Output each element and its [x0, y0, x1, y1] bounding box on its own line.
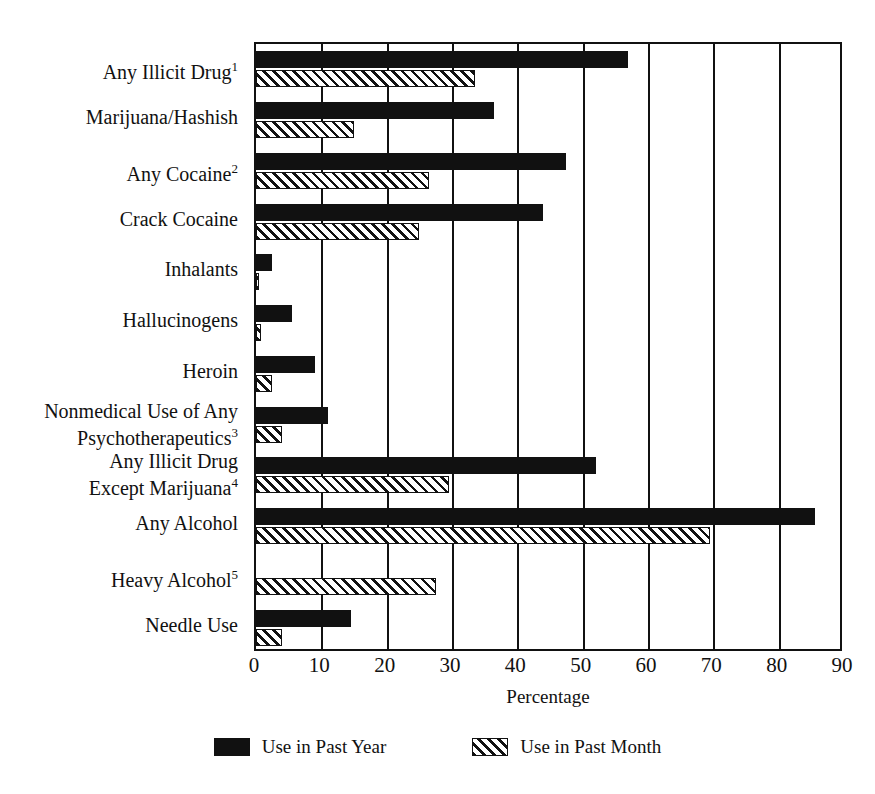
x-tick-label-90: 90: [832, 653, 853, 678]
category-label-text: Crack Cocaine: [120, 208, 238, 230]
bar-past-month-7: [256, 426, 282, 443]
legend-item-1: Use in Past Month: [472, 736, 661, 758]
bar-past-month-0: [256, 70, 475, 87]
category-label-0: Any Illicit Drug1: [103, 56, 238, 83]
category-label-8: Any Illicit DrugExcept Marijuana4: [89, 451, 238, 499]
gridline-50: [583, 44, 585, 649]
footnote-marker: 5: [232, 567, 239, 582]
category-label-text-2: Psychotherapeutics: [77, 426, 231, 448]
bar-past-year-8: [256, 457, 596, 474]
legend-swatch-hatched: [472, 738, 508, 756]
category-label-text: Heroin: [182, 360, 238, 382]
gridline-20: [387, 44, 389, 649]
bar-past-month-10: [256, 578, 436, 595]
bar-past-year-2: [256, 153, 566, 170]
legend-swatch-solid: [214, 738, 250, 756]
bar-past-year-9: [256, 508, 815, 525]
x-tick-label-60: 60: [636, 653, 657, 678]
category-label-text: Any Alcohol: [135, 512, 238, 534]
legend-label: Use in Past Year: [262, 736, 387, 758]
x-tick-label-0: 0: [249, 653, 260, 678]
category-label-text: Any Cocaine: [127, 163, 232, 185]
category-label-3: Crack Cocaine: [120, 209, 238, 230]
footnote-marker: 2: [232, 161, 239, 176]
bar-past-month-9: [256, 527, 710, 544]
x-tick-label-50: 50: [570, 653, 591, 678]
legend-label: Use in Past Month: [520, 736, 661, 758]
category-label-9: Any Alcohol: [135, 513, 238, 534]
gridline-70: [713, 44, 715, 649]
bar-past-month-11: [256, 629, 282, 646]
gridline-30: [452, 44, 454, 649]
plot-area: [254, 42, 842, 651]
gridline-60: [648, 44, 650, 649]
category-label-text: Hallucinogens: [122, 309, 238, 331]
bar-past-year-11: [256, 610, 351, 627]
bar-past-year-1: [256, 102, 494, 119]
category-label-5: Hallucinogens: [122, 310, 238, 331]
category-label-10: Heavy Alcohol5: [111, 564, 238, 591]
x-axis-title: Percentage: [254, 686, 842, 708]
category-label-text: Marijuana/Hashish: [86, 106, 238, 128]
category-label-7: Nonmedical Use of AnyPsychotherapeutics3: [44, 401, 238, 449]
x-tick-label-70: 70: [701, 653, 722, 678]
bar-past-year-0: [256, 51, 628, 68]
x-axis-ticks: 0102030405060708090: [254, 653, 842, 683]
category-label-11: Needle Use: [145, 615, 238, 636]
category-label-1: Marijuana/Hashish: [86, 107, 238, 128]
footnote-marker: 1: [232, 59, 239, 74]
category-label-text: Any Illicit Drug: [109, 450, 238, 472]
bar-past-month-6: [256, 375, 272, 392]
x-tick-label-80: 80: [766, 653, 787, 678]
bar-past-month-5: [256, 324, 261, 341]
bar-past-month-3: [256, 223, 419, 240]
category-label-text-2: Except Marijuana: [89, 477, 232, 499]
bar-past-year-3: [256, 204, 543, 221]
category-label-text: Nonmedical Use of Any: [44, 400, 238, 422]
bar-past-month-8: [256, 476, 449, 493]
bar-past-month-1: [256, 121, 354, 138]
bar-past-year-4: [256, 254, 272, 271]
legend: Use in Past YearUse in Past Month: [0, 736, 875, 758]
legend-item-0: Use in Past Year: [214, 736, 387, 758]
x-tick-label-30: 30: [440, 653, 461, 678]
category-axis-labels: Any Illicit Drug1Marijuana/HashishAny Co…: [0, 42, 248, 651]
category-label-4: Inhalants: [165, 259, 238, 280]
x-tick-label-40: 40: [505, 653, 526, 678]
bar-past-year-7: [256, 407, 328, 424]
x-tick-label-20: 20: [374, 653, 395, 678]
bar-past-year-6: [256, 356, 315, 373]
gridline-40: [517, 44, 519, 649]
bar-chart: Any Illicit Drug1Marijuana/HashishAny Co…: [0, 0, 875, 794]
category-label-text: Any Illicit Drug: [103, 61, 232, 83]
bar-past-month-4: [256, 273, 259, 290]
category-label-2: Any Cocaine2: [127, 158, 238, 185]
category-label-text: Needle Use: [145, 614, 238, 636]
gridline-80: [779, 44, 781, 649]
bar-past-year-5: [256, 305, 292, 322]
footnote-marker: 3: [232, 425, 239, 440]
x-tick-label-10: 10: [309, 653, 330, 678]
category-label-6: Heroin: [182, 361, 238, 382]
category-label-text: Inhalants: [165, 258, 238, 280]
bar-past-month-2: [256, 172, 429, 189]
category-label-text: Heavy Alcohol: [111, 569, 232, 591]
footnote-marker: 4: [232, 475, 239, 490]
